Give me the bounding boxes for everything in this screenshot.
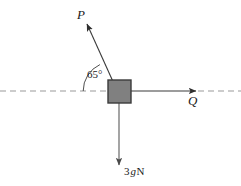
weight-label-unit: N: [137, 165, 145, 177]
force-diagram-figure: P Q 65° 3 g N: [0, 0, 241, 186]
block-body: [108, 80, 131, 103]
diagram-canvas: P Q 65° 3 g N: [0, 0, 241, 186]
block-square: [108, 80, 131, 103]
force-q-label: Q: [188, 93, 198, 108]
weight-label-group: 3 g N: [124, 165, 145, 177]
angle-65-label: 65°: [87, 68, 102, 80]
force-p-label: P: [76, 7, 85, 22]
weight-label-digit: 3: [124, 165, 130, 177]
